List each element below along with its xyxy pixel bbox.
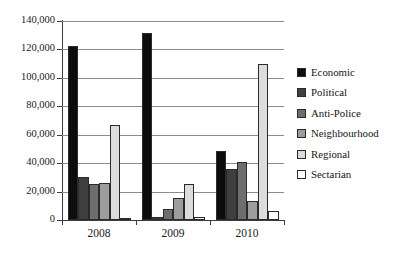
bars-layer	[62, 21, 284, 220]
x-axis-tick-label: 2010	[210, 228, 284, 240]
y-axis-tick-label: 100,000	[0, 78, 55, 79]
legend-swatch-icon	[297, 88, 306, 97]
legend-swatch-icon	[297, 150, 306, 159]
x-axis-tick-mark	[210, 220, 211, 225]
y-axis-tick-label-text: 80,000	[26, 100, 55, 111]
legend-item-label: Sectarian	[311, 169, 351, 180]
y-axis-tick-label: 120,000	[0, 49, 55, 50]
legend-swatch-icon	[297, 129, 306, 138]
y-axis-tick-label-text: 0	[50, 214, 55, 225]
y-axis-tick-label-text: 140,000	[21, 15, 55, 26]
legend-item-regional[interactable]: Regional	[297, 144, 405, 165]
bar-anti-police-2009	[163, 209, 174, 220]
y-axis-tick-label: 80,000	[0, 106, 55, 107]
bar-economic-2008	[68, 46, 79, 220]
x-axis-tick-label: 2009	[136, 228, 210, 240]
y-axis-tick-label: 140,000	[0, 21, 55, 22]
legend-item-anti-police[interactable]: Anti-Police	[297, 103, 405, 124]
legend-swatch-icon	[297, 109, 306, 118]
legend-item-label: Neighbourhood	[311, 128, 379, 139]
y-axis-tick-label-text: 120,000	[21, 43, 55, 54]
bar-economic-2010	[216, 151, 227, 220]
x-axis-line	[62, 220, 285, 221]
bar-economic-2009	[142, 33, 153, 220]
bar-anti-police-2010	[237, 162, 248, 220]
legend-swatch-icon	[297, 68, 306, 77]
legend-item-political[interactable]: Political	[297, 83, 405, 104]
bar-neighbourhood-2008	[99, 183, 110, 220]
bar-chart: 020,00040,00060,00080,000100,000120,0001…	[0, 0, 407, 254]
legend-item-neighbourhood[interactable]: Neighbourhood	[297, 124, 405, 145]
y-axis-tick-label: 20,000	[0, 192, 55, 193]
y-axis-tick-label: 0	[0, 220, 55, 221]
bar-regional-2008	[110, 125, 121, 220]
x-axis-tick-mark	[136, 220, 137, 225]
x-axis-tick-mark	[62, 220, 63, 225]
legend-item-label: Anti-Police	[311, 108, 361, 119]
bar-political-2010	[226, 169, 237, 220]
x-axis-tick-mark	[284, 220, 285, 225]
chart-legend: EconomicPoliticalAnti-PoliceNeighbourhoo…	[297, 62, 405, 185]
bar-sectarian-2010	[268, 211, 279, 220]
bar-political-2008	[78, 177, 89, 220]
bar-neighbourhood-2009	[173, 198, 184, 220]
legend-item-label: Regional	[311, 149, 350, 160]
y-axis-tick-label: 60,000	[0, 135, 55, 136]
legend-item-label: Political	[311, 87, 347, 98]
bar-regional-2010	[258, 64, 269, 220]
y-axis-tick-label-text: 20,000	[26, 186, 55, 197]
y-axis-tick-label-text: 100,000	[21, 72, 55, 83]
legend-item-label: Economic	[311, 67, 355, 78]
bar-sectarian-2008	[120, 218, 131, 220]
bar-neighbourhood-2010	[247, 201, 258, 220]
bar-sectarian-2009	[194, 217, 205, 220]
x-axis-tick-label: 2008	[62, 228, 136, 240]
bar-anti-police-2008	[89, 184, 100, 220]
legend-item-sectarian[interactable]: Sectarian	[297, 165, 405, 186]
y-axis-tick-label-text: 40,000	[26, 157, 55, 168]
bar-regional-2009	[184, 184, 195, 220]
legend-item-economic[interactable]: Economic	[297, 62, 405, 83]
y-axis-tick-label: 40,000	[0, 163, 55, 164]
legend-swatch-icon	[297, 170, 306, 179]
y-axis-tick-label-text: 60,000	[26, 129, 55, 140]
bar-political-2009	[152, 217, 163, 220]
